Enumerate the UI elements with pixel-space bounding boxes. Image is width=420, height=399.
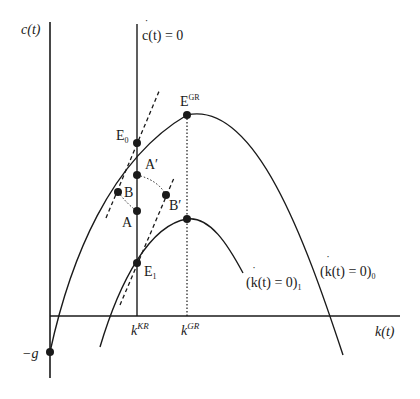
point-e1 — [133, 259, 141, 267]
k-dot-zero-curve-0 — [50, 114, 343, 355]
b-prime-label: B′ — [169, 198, 181, 213]
e-gr-label: EGR — [180, 93, 200, 109]
point-b — [114, 188, 122, 196]
c-dot-rest: (t) = 0 — [148, 28, 183, 44]
point-peak-curve-1 — [183, 215, 191, 223]
point-a — [133, 207, 141, 215]
k-dot-zero-0-subscript: 0 — [371, 272, 375, 281]
a-prime-label: A′ — [145, 157, 158, 172]
point-minus-g — [46, 348, 54, 356]
point-e-gr — [183, 111, 191, 119]
k-dot-zero-curve-1 — [100, 219, 243, 347]
k-kr-label: kKR — [131, 321, 149, 338]
k-gr-label: kGR — [181, 321, 200, 338]
k-dot-zero-0-overdot: ˙ — [326, 253, 330, 267]
k-dot-zero-1-subscript: 1 — [297, 283, 301, 292]
point-e0 — [133, 139, 141, 147]
x-axis-label: k(t) — [375, 324, 395, 340]
phase-diagram: c(t) k(t) −g c(t) = 0 ˙ (k(t) = 0)0 ˙ (k… — [0, 0, 420, 399]
e0-label: E0 — [116, 128, 129, 145]
y-axis-label: c(t) — [21, 22, 41, 38]
path-a-prime-to-b-prime — [137, 175, 166, 195]
a-label: A — [122, 215, 133, 230]
point-a-prime — [133, 171, 141, 179]
k-dot-zero-1-overdot: ˙ — [252, 264, 256, 278]
c-dot-overdot: ˙ — [145, 17, 149, 31]
e1-label: E1 — [144, 264, 157, 281]
b-label: B — [124, 185, 133, 200]
y-intercept-label: −g — [22, 346, 38, 361]
